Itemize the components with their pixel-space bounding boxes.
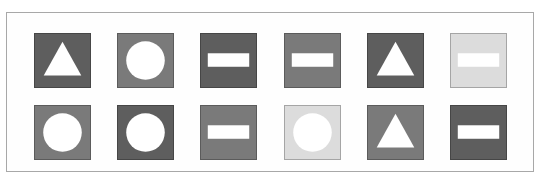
triangle-icon [368, 106, 423, 159]
triangle-icon [35, 34, 90, 87]
tile-circle [117, 105, 174, 160]
triangle-icon [368, 34, 423, 87]
tile-rectangle [200, 105, 257, 160]
circle-icon [118, 34, 173, 87]
tile-rectangle [200, 33, 257, 88]
tile-triangle [367, 33, 424, 88]
circle-icon [285, 106, 340, 159]
rectangle-icon [451, 106, 506, 159]
rectangle-icon [201, 34, 256, 87]
rectangle-icon [201, 106, 256, 159]
circle-icon [35, 106, 90, 159]
tile-circle [117, 33, 174, 88]
tile-circle [34, 105, 91, 160]
rectangle-icon [285, 34, 340, 87]
rectangle-icon [451, 34, 506, 87]
tile-rectangle [450, 33, 507, 88]
tile-circle [284, 105, 341, 160]
tile-rectangle [450, 105, 507, 160]
tile-triangle [34, 33, 91, 88]
tile-rectangle [284, 33, 341, 88]
circle-icon [118, 106, 173, 159]
tile-triangle [367, 105, 424, 160]
